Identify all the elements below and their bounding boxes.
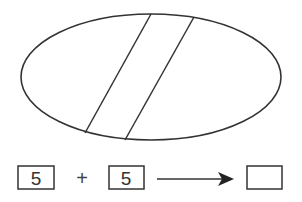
operand-2-value: 5 bbox=[121, 168, 132, 189]
plus-operator: + bbox=[76, 167, 88, 189]
band-line-left bbox=[85, 14, 151, 133]
result-box bbox=[247, 166, 282, 189]
diagram-canvas: 5 + 5 bbox=[0, 0, 302, 202]
right-arrow-icon bbox=[157, 172, 234, 186]
equation: 5 + 5 bbox=[18, 166, 282, 189]
ellipse-outline bbox=[21, 14, 281, 140]
operand-1-value: 5 bbox=[31, 168, 42, 189]
band-line-right bbox=[125, 17, 194, 140]
ellipse-figure bbox=[21, 14, 281, 140]
